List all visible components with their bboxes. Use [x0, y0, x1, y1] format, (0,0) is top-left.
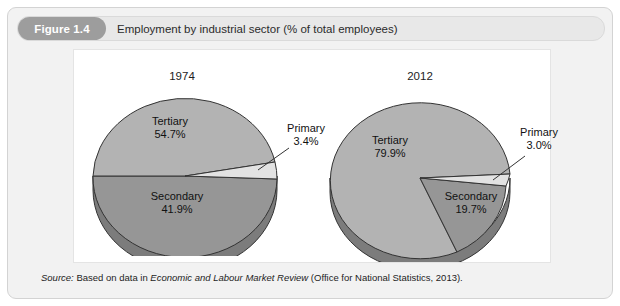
- figure-caption: Employment by industrial sector (% of to…: [117, 17, 398, 40]
- pie-2012-primary-label: Primary 3.0%: [520, 126, 558, 152]
- source-publication: Economic and Labour Market Review: [150, 272, 308, 283]
- source-lead: Based on data in: [74, 272, 151, 283]
- pie-2012-tertiary-value: 79.9%: [374, 147, 405, 159]
- pie-1974-primary-name: Primary: [287, 122, 325, 134]
- pie-1974-tertiary-label: Tertiary 54.7%: [152, 115, 188, 141]
- figure-header-bar: Figure 1.4 Employment by industrial sect…: [17, 16, 605, 41]
- pie-2012-primary-name: Primary: [520, 126, 558, 138]
- pie-2012-secondary-value: 19.7%: [455, 203, 486, 215]
- figure-number-badge: Figure 1.4: [18, 17, 106, 40]
- source-prefix: Source:: [41, 272, 74, 283]
- pie-1974-secondary-name: Secondary: [151, 190, 204, 202]
- pie-2012-secondary-name: Secondary: [445, 190, 498, 202]
- pie-2012-svg: [325, 92, 535, 262]
- pie-1974-secondary-value: 41.9%: [161, 203, 192, 215]
- pie-1974-svg: [82, 86, 292, 256]
- figure-card: Figure 1.4 Employment by industrial sect…: [7, 7, 613, 299]
- pie-2012-tertiary-label: Tertiary 79.9%: [372, 134, 408, 160]
- pie-1974-primary-value: 3.4%: [293, 135, 318, 147]
- pie-1974-tertiary-value: 54.7%: [154, 128, 185, 140]
- pie-1974-primary-label: Primary 3.4%: [287, 122, 325, 148]
- pie-2012-year-label: 2012: [407, 70, 433, 82]
- pie-1974-tertiary-name: Tertiary: [152, 115, 188, 127]
- pie-1974-year-label: 1974: [169, 70, 195, 82]
- pie-chart-1974: [82, 86, 292, 256]
- pie-2012-tertiary-name: Tertiary: [372, 134, 408, 146]
- pie-chart-2012: [325, 92, 535, 262]
- pie-2012-primary-value: 3.0%: [526, 139, 551, 151]
- source-tail: (Office for National Statistics, 2013).: [308, 272, 463, 283]
- chart-panel: 1974 Tertiary 54.7% Secondary 41.9%: [73, 49, 551, 263]
- source-note: Source: Based on data in Economic and La…: [41, 272, 463, 283]
- pie-1974-secondary-label: Secondary 41.9%: [151, 190, 204, 216]
- pie-2012-secondary-label: Secondary 19.7%: [445, 190, 498, 216]
